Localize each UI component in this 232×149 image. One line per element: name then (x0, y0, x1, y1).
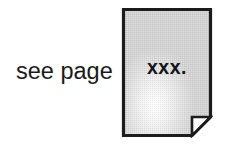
caption-text: see page (16, 55, 116, 87)
figure-canvas: see page (0, 0, 232, 149)
document-page-icon: xxx. (121, 7, 213, 138)
corner-fold-icon (192, 117, 211, 136)
document-page-shape (121, 7, 213, 138)
